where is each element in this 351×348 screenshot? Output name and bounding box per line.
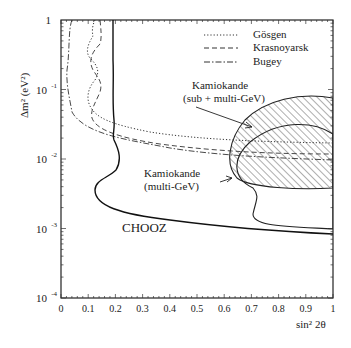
oscillation-exclusion-plot: Gösgen Krasnoyarsk Bugey Kamiokande (sub…	[0, 0, 351, 348]
svg-text:10: 10	[36, 223, 48, 235]
svg-text:0.7: 0.7	[245, 303, 258, 314]
y-tick-labels: 110-110-210-310-4	[36, 14, 57, 304]
annotation-kamiokande-multi: Kamiokande (multi-GeV)	[144, 167, 232, 193]
annotation-chooz: CHOOZ	[122, 220, 167, 235]
svg-text:0.4: 0.4	[164, 303, 177, 314]
legend-label-bugey: Bugey	[253, 55, 282, 67]
svg-text:0.8: 0.8	[272, 303, 285, 314]
svg-text:-1: -1	[51, 82, 57, 90]
svg-text:(multi-GeV): (multi-GeV)	[144, 180, 199, 193]
svg-text:0.1: 0.1	[82, 303, 95, 314]
svg-text:0.6: 0.6	[218, 303, 231, 314]
y-axis-label: Δm² (eV²)	[18, 73, 31, 118]
x-tick-labels: 00.10.20.30.40.50.60.70.80.91	[59, 303, 336, 314]
legend-label-gosgen: Gösgen	[253, 28, 287, 40]
svg-text:(sub + multi-GeV): (sub + multi-GeV)	[183, 92, 265, 105]
legend: Gösgen Krasnoyarsk Bugey	[204, 28, 309, 67]
x-axis-label: sin² 2θ	[296, 318, 326, 330]
svg-text:-2: -2	[51, 151, 57, 159]
svg-text:10: 10	[36, 153, 48, 165]
svg-text:1: 1	[46, 14, 52, 26]
svg-text:Kamiokande: Kamiokande	[144, 167, 200, 179]
svg-text:0.9: 0.9	[300, 303, 313, 314]
svg-text:Δm² (eV²): Δm² (eV²)	[18, 73, 31, 118]
svg-text:-3: -3	[51, 221, 57, 229]
svg-text:10: 10	[36, 84, 48, 96]
svg-text:1: 1	[331, 303, 336, 314]
svg-text:10: 10	[36, 292, 48, 304]
svg-text:0.5: 0.5	[191, 303, 204, 314]
svg-text:0.2: 0.2	[109, 303, 122, 314]
svg-text:Kamiokande: Kamiokande	[192, 79, 248, 91]
legend-label-krasnoyarsk: Krasnoyarsk	[253, 41, 309, 53]
svg-text:-4: -4	[51, 290, 57, 298]
svg-text:0: 0	[59, 303, 64, 314]
svg-text:0.3: 0.3	[136, 303, 149, 314]
